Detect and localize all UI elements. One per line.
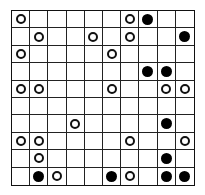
board-cell-r8-c4[interactable]: [85, 150, 103, 167]
board-cell-r7-c1[interactable]: [30, 133, 48, 150]
board-cell-r8-c8[interactable]: [158, 150, 176, 167]
board-cell-r1-c2[interactable]: [48, 28, 66, 45]
board-cell-r0-c8[interactable]: [158, 11, 176, 28]
board-cell-r4-c0[interactable]: [12, 81, 30, 98]
board-cell-r8-c2[interactable]: [48, 150, 66, 167]
board-cell-r4-c2[interactable]: [48, 81, 66, 98]
board-cell-r8-c5[interactable]: [103, 150, 121, 167]
board-cell-r9-c5[interactable]: [103, 168, 121, 185]
board-cell-r5-c6[interactable]: [121, 98, 139, 115]
board-cell-r0-c7[interactable]: [139, 11, 157, 28]
board-cell-r3-c8[interactable]: [158, 63, 176, 80]
board-cell-r0-c2[interactable]: [48, 11, 66, 28]
board-cell-r0-c4[interactable]: [85, 11, 103, 28]
board-cell-r0-c3[interactable]: [67, 11, 85, 28]
board-cell-r5-c0[interactable]: [12, 98, 30, 115]
board-cell-r2-c3[interactable]: [67, 46, 85, 63]
board-cell-r6-c5[interactable]: [103, 115, 121, 132]
board-cell-r1-c7[interactable]: [139, 28, 157, 45]
board-cell-r1-c6[interactable]: [121, 28, 139, 45]
board-cell-r3-c0[interactable]: [12, 63, 30, 80]
board-cell-r5-c5[interactable]: [103, 98, 121, 115]
board-cell-r3-c9[interactable]: [176, 63, 194, 80]
board-cell-r4-c5[interactable]: [103, 81, 121, 98]
board-cell-r9-c9[interactable]: [176, 168, 194, 185]
board-cell-r5-c1[interactable]: [30, 98, 48, 115]
board-cell-r2-c1[interactable]: [30, 46, 48, 63]
board-cell-r3-c1[interactable]: [30, 63, 48, 80]
board-cell-r5-c4[interactable]: [85, 98, 103, 115]
board-cell-r4-c3[interactable]: [67, 81, 85, 98]
board-cell-r6-c8[interactable]: [158, 115, 176, 132]
board-cell-r4-c7[interactable]: [139, 81, 157, 98]
board-cell-r9-c7[interactable]: [139, 168, 157, 185]
board-cell-r2-c4[interactable]: [85, 46, 103, 63]
board-cell-r1-c1[interactable]: [30, 28, 48, 45]
board-cell-r5-c2[interactable]: [48, 98, 66, 115]
board-cell-r6-c9[interactable]: [176, 115, 194, 132]
board-cell-r8-c7[interactable]: [139, 150, 157, 167]
board-cell-r6-c7[interactable]: [139, 115, 157, 132]
board-cell-r1-c5[interactable]: [103, 28, 121, 45]
board-cell-r4-c4[interactable]: [85, 81, 103, 98]
board-cell-r4-c1[interactable]: [30, 81, 48, 98]
board-cell-r5-c9[interactable]: [176, 98, 194, 115]
board-cell-r7-c8[interactable]: [158, 133, 176, 150]
board-cell-r5-c7[interactable]: [139, 98, 157, 115]
board-cell-r8-c9[interactable]: [176, 150, 194, 167]
board-cell-r2-c7[interactable]: [139, 46, 157, 63]
board-cell-r8-c6[interactable]: [121, 150, 139, 167]
board-cell-r9-c3[interactable]: [67, 168, 85, 185]
board-cell-r1-c8[interactable]: [158, 28, 176, 45]
board-cell-r0-c0[interactable]: [12, 11, 30, 28]
board-cell-r9-c8[interactable]: [158, 168, 176, 185]
board-cell-r7-c4[interactable]: [85, 133, 103, 150]
board-cell-r6-c6[interactable]: [121, 115, 139, 132]
board-cell-r7-c3[interactable]: [67, 133, 85, 150]
board-cell-r8-c3[interactable]: [67, 150, 85, 167]
board-cell-r0-c9[interactable]: [176, 11, 194, 28]
board-cell-r8-c0[interactable]: [12, 150, 30, 167]
board-cell-r2-c8[interactable]: [158, 46, 176, 63]
board-cell-r7-c6[interactable]: [121, 133, 139, 150]
board-cell-r9-c0[interactable]: [12, 168, 30, 185]
board-cell-r3-c5[interactable]: [103, 63, 121, 80]
board-cell-r3-c2[interactable]: [48, 63, 66, 80]
board-cell-r5-c8[interactable]: [158, 98, 176, 115]
board-cell-r8-c1[interactable]: [30, 150, 48, 167]
board-cell-r6-c0[interactable]: [12, 115, 30, 132]
board-cell-r9-c2[interactable]: [48, 168, 66, 185]
board-cell-r2-c5[interactable]: [103, 46, 121, 63]
board-cell-r1-c4[interactable]: [85, 28, 103, 45]
board-cell-r9-c4[interactable]: [85, 168, 103, 185]
board-cell-r3-c6[interactable]: [121, 63, 139, 80]
board-cell-r0-c1[interactable]: [30, 11, 48, 28]
board-cell-r9-c1[interactable]: [30, 168, 48, 185]
board-cell-r2-c6[interactable]: [121, 46, 139, 63]
board-cell-r7-c0[interactable]: [12, 133, 30, 150]
board-cell-r1-c9[interactable]: [176, 28, 194, 45]
board-cell-r3-c3[interactable]: [67, 63, 85, 80]
board-cell-r7-c2[interactable]: [48, 133, 66, 150]
board-cell-r3-c7[interactable]: [139, 63, 157, 80]
board-cell-r6-c4[interactable]: [85, 115, 103, 132]
board-cell-r4-c8[interactable]: [158, 81, 176, 98]
board-cell-r0-c6[interactable]: [121, 11, 139, 28]
board-cell-r3-c4[interactable]: [85, 63, 103, 80]
board-cell-r6-c1[interactable]: [30, 115, 48, 132]
board-cell-r6-c2[interactable]: [48, 115, 66, 132]
board-cell-r0-c5[interactable]: [103, 11, 121, 28]
board-cell-r7-c9[interactable]: [176, 133, 194, 150]
board-cell-r2-c0[interactable]: [12, 46, 30, 63]
board-cell-r4-c6[interactable]: [121, 81, 139, 98]
board-cell-r7-c5[interactable]: [103, 133, 121, 150]
board-cell-r9-c6[interactable]: [121, 168, 139, 185]
board-cell-r2-c9[interactable]: [176, 46, 194, 63]
board-cell-r1-c3[interactable]: [67, 28, 85, 45]
board-cell-r6-c3[interactable]: [67, 115, 85, 132]
board-cell-r7-c7[interactable]: [139, 133, 157, 150]
board-cell-r2-c2[interactable]: [48, 46, 66, 63]
board-cell-r5-c3[interactable]: [67, 98, 85, 115]
board-cell-r4-c9[interactable]: [176, 81, 194, 98]
board-cell-r1-c0[interactable]: [12, 28, 30, 45]
